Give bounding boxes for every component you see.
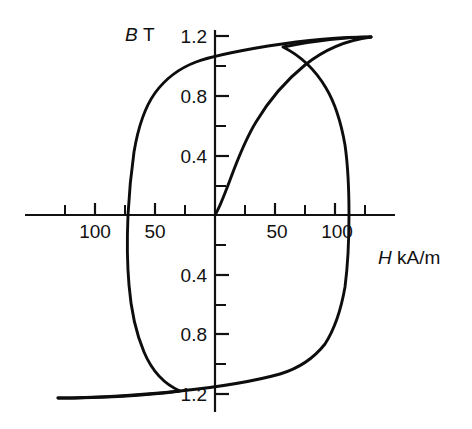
x-tick-label-50-negative: 50 xyxy=(144,221,165,242)
x-axis-title-symbol: H xyxy=(378,247,392,268)
y-tick-label-1.2-negative: 1.2 xyxy=(181,384,207,405)
x-tick-label-50-positive: 50 xyxy=(266,221,287,242)
hysteresis-chart-figure: 1.2 0.8 0.4 0.4 0.8 1.2 100 50 50 100 B … xyxy=(0,0,472,429)
y-axis-title-unit: T xyxy=(143,24,155,45)
x-axis-title-unit: kA/m xyxy=(397,247,440,268)
y-axis-title-symbol: B xyxy=(125,24,138,45)
hysteresis-chart-svg: 1.2 0.8 0.4 0.4 0.8 1.2 100 50 50 100 B … xyxy=(0,0,472,429)
x-tick-label-100-negative: 100 xyxy=(79,221,111,242)
y-tick-label-0.8-positive: 0.8 xyxy=(181,86,207,107)
y-tick-label-0.4-positive: 0.4 xyxy=(181,146,208,167)
x-tick-label-100-positive: 100 xyxy=(321,221,353,242)
y-tick-label-0.4-negative: 0.4 xyxy=(181,265,208,286)
y-tick-label-0.8-negative: 0.8 xyxy=(181,324,207,345)
y-tick-label-1.2-positive: 1.2 xyxy=(181,26,207,47)
